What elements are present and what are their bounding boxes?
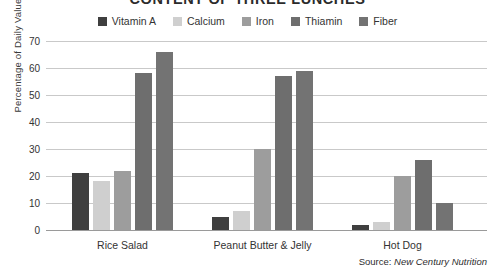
bar [415,160,432,230]
legend-swatch-icon [359,17,368,26]
gridline: 50 [46,95,487,96]
axis-baseline: 0 [46,230,487,231]
y-axis-tick-label: 50 [29,90,40,101]
legend-swatch-icon [291,17,300,26]
chart-legend: Vitamin ACalciumIronThiaminFiber [0,14,495,28]
bar [135,73,152,230]
y-axis-tick-label: 70 [29,36,40,47]
legend-item[interactable]: Iron [242,15,274,27]
legend-label: Calcium [187,15,225,27]
legend-item[interactable]: Calcium [173,15,225,27]
legend-label: Fiber [373,15,397,27]
gridline: 70 [46,41,487,42]
y-axis-tick-label: 0 [34,225,40,236]
y-axis-tick-label: 60 [29,63,40,74]
y-axis-title: Percentage of Daily Value [12,0,23,151]
gridline: 60 [46,68,487,69]
chart-title: CONTENT OF THREE LUNCHES [0,0,495,7]
y-axis-tick-label: 20 [29,171,40,182]
legend-label: Vitamin A [112,15,156,27]
x-axis-group-label: Peanut Butter & Jelly [213,239,311,251]
bar [296,71,313,230]
y-axis-tick-label: 30 [29,144,40,155]
bar [156,52,173,230]
bar [114,171,131,230]
gridline: 40 [46,122,487,123]
source-label: Source: [359,256,392,267]
bar [233,211,250,230]
y-axis-tick-label: 40 [29,117,40,128]
legend-swatch-icon [98,17,107,26]
bar [373,222,390,230]
bar [352,225,369,230]
legend-item[interactable]: Thiamin [291,15,342,27]
bar [212,217,229,231]
bar [93,181,110,230]
y-axis-tick-label: 10 [29,198,40,209]
x-axis-group-label: Rice Salad [97,239,148,251]
legend-swatch-icon [173,17,182,26]
chart-figure: CONTENT OF THREE LUNCHES Vitamin ACalciu… [0,0,495,272]
source-note: Source: New Century Nutrition [359,256,487,267]
legend-item[interactable]: Fiber [359,15,397,27]
legend-swatch-icon [242,17,251,26]
bar [394,176,411,230]
plot-area: 010203040506070Rice SaladPeanut Butter &… [46,41,487,230]
legend-label: Thiamin [305,15,342,27]
x-axis-group-label: Hot Dog [383,239,422,251]
bar [254,149,271,230]
bar [275,76,292,230]
bar [436,203,453,230]
legend-label: Iron [256,15,274,27]
source-name: New Century Nutrition [394,256,487,267]
legend-item[interactable]: Vitamin A [98,15,156,27]
bar [72,173,89,230]
